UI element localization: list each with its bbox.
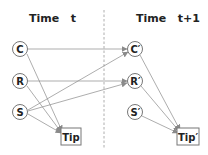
title-time-t-plus-1: Time t+1 xyxy=(136,12,200,25)
edge-r-tip xyxy=(27,86,61,132)
node-r-prime: R′ xyxy=(128,74,143,89)
node-tip: Tip xyxy=(61,128,81,145)
svg-text:R′: R′ xyxy=(130,76,141,87)
edge-s-prime-tip-prime xyxy=(142,116,178,133)
edge-c-tip xyxy=(27,54,62,131)
title-time-t: Time t xyxy=(29,12,76,25)
node-r: R xyxy=(13,74,28,89)
edge-s-r-prime xyxy=(28,83,127,111)
svg-text:S′: S′ xyxy=(131,107,141,118)
node-tip-prime: Tip′ xyxy=(177,128,199,145)
svg-text:S: S xyxy=(16,107,23,118)
edge-s-tip xyxy=(28,114,61,133)
svg-text:Tip′: Tip′ xyxy=(178,132,198,143)
svg-text:Tip: Tip xyxy=(62,132,79,143)
svg-text:C: C xyxy=(16,44,23,55)
svg-text:C′: C′ xyxy=(131,44,141,55)
node-c-prime: C′ xyxy=(128,42,143,57)
edges xyxy=(27,49,180,133)
node-s: S xyxy=(13,105,28,120)
dbn-diagram: Time t Time t+1 C R S Tip C′ R′ xyxy=(0,0,208,155)
node-s-prime: S′ xyxy=(128,105,143,120)
edge-c-prime-tip-prime xyxy=(140,55,180,130)
node-c: C xyxy=(13,42,28,57)
svg-text:R: R xyxy=(16,76,24,87)
